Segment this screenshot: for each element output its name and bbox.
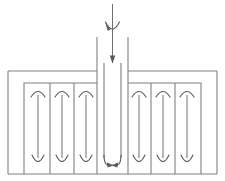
mid-arrow-head-icon [110,56,116,64]
vessel-outer-boundary [8,71,217,174]
left-channel-1-flow [31,92,45,162]
right-channel-3-flow [180,92,194,162]
flow-diagram-canvas [0,0,225,181]
left-channel-2-flow [55,92,69,162]
left-bank-flow-paths [31,92,93,162]
mid-channel-arrow [110,33,116,64]
inlet-arrow-barb-icon [105,22,111,31]
right-channel-2-flow [156,92,170,162]
inlet-arrow [105,4,120,33]
left-channel-3-flow [79,92,93,162]
right-bank-flow-paths [132,92,194,162]
right-channel-1-flow [132,92,146,162]
flow-diagram-root [0,0,225,181]
central-split-arrows [104,63,121,168]
